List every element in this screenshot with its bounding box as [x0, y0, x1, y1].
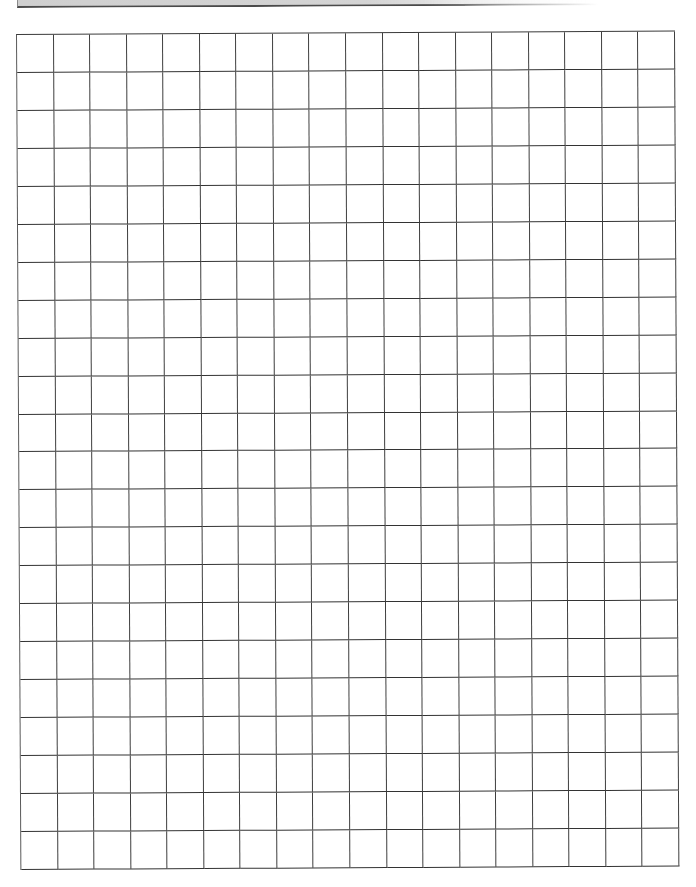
grid-cell	[56, 452, 93, 490]
grid-cell	[55, 224, 92, 262]
grid-cell	[309, 33, 346, 71]
grid-cell	[383, 71, 420, 109]
grid-cell	[240, 641, 277, 679]
grid-cell	[130, 679, 167, 717]
grid-cell	[606, 829, 643, 867]
grid-cell	[167, 717, 204, 755]
grid-cell	[421, 374, 458, 412]
grid-cell	[165, 376, 202, 414]
grid-cell	[202, 375, 239, 413]
grid-cell	[311, 299, 348, 337]
grid	[16, 31, 679, 870]
graph-paper-grid	[16, 31, 679, 870]
grid-cell	[165, 452, 202, 490]
grid-cell	[459, 678, 496, 716]
grid-cell	[275, 451, 312, 489]
grid-cell	[567, 260, 604, 298]
grid-cell	[313, 678, 350, 716]
grid-cell	[91, 224, 128, 262]
grid-cell	[602, 32, 639, 70]
grid-cell	[314, 830, 351, 868]
grid-cell	[641, 449, 678, 487]
grid-cell	[130, 604, 167, 642]
grid-cell	[167, 831, 204, 869]
grid-cell	[90, 34, 127, 72]
grid-cell	[275, 413, 312, 451]
grid-cell	[384, 374, 421, 412]
grid-cell	[204, 831, 241, 869]
grid-cell	[128, 338, 165, 376]
grid-cell	[423, 716, 460, 754]
grid-cell	[312, 451, 349, 489]
grid-cell	[532, 715, 569, 753]
grid-cell	[94, 718, 131, 756]
grid-cell	[457, 374, 494, 412]
grid-cell	[54, 186, 91, 224]
grid-cell	[566, 146, 603, 184]
grid-cell	[350, 754, 387, 792]
grid-cell	[423, 830, 460, 868]
grid-cell	[529, 146, 566, 184]
grid-cell	[384, 337, 421, 375]
grid-cell	[203, 603, 240, 641]
grid-cell	[237, 72, 274, 110]
grid-cell	[639, 107, 676, 145]
grid-cell	[386, 678, 423, 716]
grid-cell	[57, 642, 94, 680]
grid-cell	[277, 830, 314, 868]
grid-cell	[127, 72, 164, 110]
grid-cell	[387, 792, 424, 830]
grid-cell	[19, 376, 56, 414]
grid-cell	[603, 297, 640, 335]
grid-cell	[239, 451, 276, 489]
grid-cell	[129, 528, 166, 566]
grid-cell	[421, 450, 458, 488]
grid-cell	[568, 601, 605, 639]
grid-cell	[93, 604, 130, 642]
grid-cell	[128, 376, 165, 414]
grid-cell	[640, 335, 677, 373]
grid-cell	[602, 70, 639, 108]
grid-cell	[55, 338, 92, 376]
grid-cell	[348, 489, 385, 527]
grid-cell	[496, 791, 533, 829]
grid-cell	[350, 792, 387, 830]
grid-cell	[456, 108, 493, 146]
grid-cell	[236, 34, 273, 72]
grid-cell	[203, 679, 240, 717]
grid-cell	[238, 337, 275, 375]
grid-cell	[91, 110, 128, 148]
grid-cell	[129, 490, 166, 528]
grid-cell	[273, 33, 310, 71]
grid-cell	[530, 298, 567, 336]
grid-cell	[423, 754, 460, 792]
grid-cell	[533, 829, 570, 867]
grid-cell	[201, 262, 238, 300]
grid-cell	[569, 715, 606, 753]
grid-cell	[200, 72, 237, 110]
grid-cell	[313, 716, 350, 754]
grid-cell	[127, 34, 164, 72]
grid-cell	[200, 34, 237, 72]
grid-cell	[494, 298, 531, 336]
grid-cell	[90, 72, 127, 110]
grid-cell	[565, 32, 602, 70]
grid-cell	[237, 223, 274, 261]
grid-cell	[21, 832, 58, 870]
grid-cell	[203, 641, 240, 679]
grid-cell	[201, 300, 238, 338]
grid-cell	[241, 831, 278, 869]
grid-cell	[493, 260, 530, 298]
grid-cell	[569, 639, 606, 677]
grid-cell	[349, 602, 386, 640]
grid-cell	[92, 376, 129, 414]
grid-cell	[420, 147, 457, 185]
grid-cell	[274, 185, 311, 223]
grid-cell	[385, 564, 422, 602]
grid-cell	[274, 337, 311, 375]
grid-cell	[569, 753, 606, 791]
grid-cell	[164, 186, 201, 224]
grid-cell	[128, 224, 165, 262]
grid-cell	[639, 221, 676, 259]
grid-cell	[605, 563, 642, 601]
